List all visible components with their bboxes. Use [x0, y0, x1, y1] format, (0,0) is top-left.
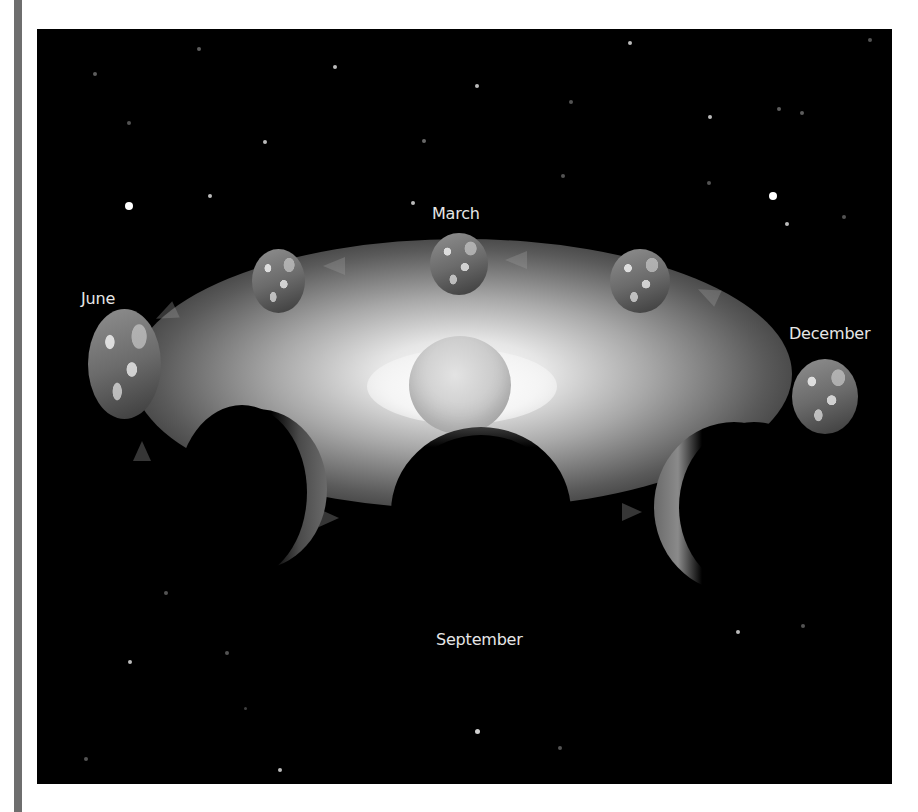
star	[842, 215, 846, 219]
earth-globe-april	[252, 249, 305, 313]
earth-shadow	[177, 405, 307, 580]
earth-globe-december	[792, 359, 858, 434]
earth-globe-march	[430, 233, 488, 295]
star	[197, 47, 201, 51]
star	[628, 41, 632, 45]
star	[708, 115, 712, 119]
star	[128, 660, 132, 664]
earth-globe-june	[88, 309, 161, 419]
label-september: September	[436, 630, 523, 649]
star	[93, 72, 97, 76]
orbit-diagram: March June December September	[37, 29, 892, 784]
label-march: March	[432, 204, 480, 223]
star	[127, 121, 131, 125]
star	[800, 111, 804, 115]
star	[868, 38, 872, 42]
star	[208, 194, 212, 198]
star	[422, 139, 426, 143]
star	[475, 729, 480, 734]
star	[736, 630, 740, 634]
star	[801, 624, 805, 628]
star	[84, 757, 88, 761]
star	[785, 222, 789, 226]
star	[569, 100, 573, 104]
earth-shadow	[393, 435, 569, 605]
label-june: June	[81, 289, 115, 308]
orbit-arrow-icon	[505, 251, 527, 269]
star	[411, 201, 415, 205]
star	[225, 651, 229, 655]
star	[777, 107, 781, 111]
star	[164, 591, 168, 595]
star-bright	[125, 202, 133, 210]
label-december: December	[789, 324, 870, 343]
star-bright	[769, 192, 777, 200]
star	[244, 707, 247, 710]
star	[475, 84, 479, 88]
star	[707, 181, 711, 185]
orbit-arrow-icon	[133, 441, 151, 461]
sun	[409, 336, 511, 434]
star	[561, 174, 565, 178]
star	[278, 768, 282, 772]
earth-globe-february	[610, 249, 670, 313]
star	[263, 140, 267, 144]
orbit-arrow-icon	[323, 257, 345, 275]
page-margin-bar	[14, 0, 22, 812]
star	[558, 746, 562, 750]
star	[333, 65, 337, 69]
earth-shadow	[679, 422, 829, 592]
orbit-arrow-icon	[622, 503, 642, 521]
